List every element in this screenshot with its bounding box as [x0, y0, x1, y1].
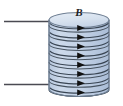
lead-wires-group: [4, 22, 54, 85]
solenoid-diagram: B: [0, 0, 123, 106]
magnetic-field-label: B: [74, 6, 82, 18]
solenoid-figure: B: [0, 0, 123, 106]
